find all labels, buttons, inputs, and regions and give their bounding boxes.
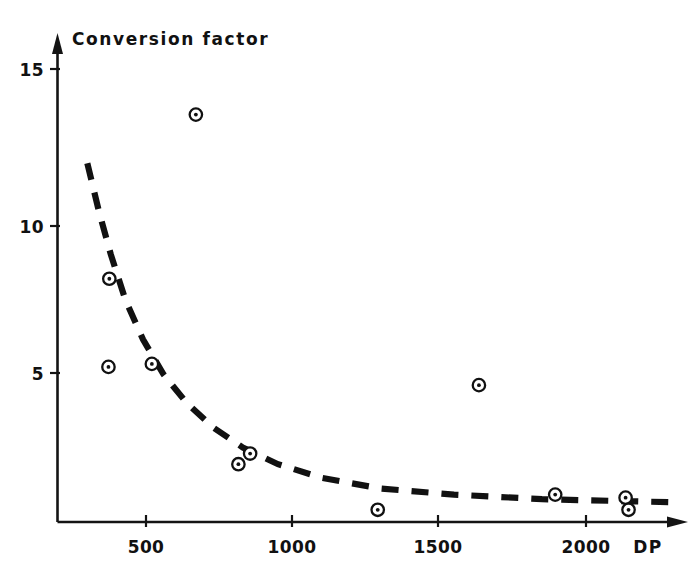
- data-point-group: [102, 108, 634, 516]
- chart-figure: 15 10 5 500 1000 1500 2000 DP Conversion…: [0, 0, 697, 573]
- y-axis: [52, 33, 63, 522]
- data-point: [146, 358, 158, 370]
- x-axis-label: DP: [633, 537, 662, 557]
- y-axis-arrowhead: [52, 33, 63, 54]
- data-point-center: [107, 365, 111, 369]
- data-point-center: [150, 362, 154, 366]
- x-axis: [58, 517, 689, 528]
- data-point-center: [624, 496, 628, 500]
- data-point-center: [376, 508, 380, 512]
- data-point-center: [194, 113, 198, 117]
- data-point-center: [553, 493, 557, 497]
- data-point-center: [477, 383, 481, 387]
- data-point: [102, 361, 114, 373]
- x-tick-label-1000: 1000: [268, 537, 317, 557]
- data-point: [190, 108, 202, 120]
- data-point: [232, 458, 244, 470]
- data-point: [372, 504, 384, 516]
- fit-curve-dashed: [87, 163, 671, 502]
- data-point: [549, 488, 561, 500]
- x-tick-label-1500: 1500: [414, 537, 463, 557]
- data-point-center: [248, 452, 252, 456]
- x-tick-label-2000: 2000: [562, 537, 611, 557]
- data-point-center: [627, 508, 631, 512]
- x-tick-label-500: 500: [128, 537, 165, 557]
- data-point: [473, 379, 485, 391]
- data-point: [622, 504, 634, 516]
- chart-title: Conversion factor: [72, 29, 269, 49]
- y-tick-label-5: 5: [32, 364, 44, 384]
- data-point: [619, 491, 631, 503]
- data-point: [103, 273, 115, 285]
- x-axis-arrowhead: [667, 517, 688, 528]
- data-point: [244, 447, 256, 459]
- data-point-center: [107, 277, 111, 281]
- scatter-plot: 15 10 5 500 1000 1500 2000 DP Conversion…: [0, 0, 697, 573]
- data-point-center: [237, 462, 241, 466]
- y-tick-label-10: 10: [20, 217, 44, 237]
- y-tick-label-15: 15: [20, 60, 44, 80]
